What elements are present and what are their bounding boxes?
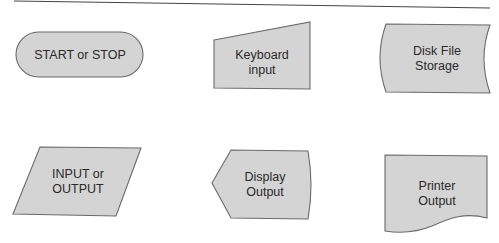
display-label: Display Output xyxy=(245,170,286,200)
terminal-label-line-1: START or STOP xyxy=(34,48,125,63)
terminal-label: START or STOP xyxy=(34,48,125,63)
keyboard-label-line-2: input xyxy=(235,63,289,78)
io-label: INPUT or OUTPUT xyxy=(52,167,104,197)
disk-label: Disk File Storage xyxy=(413,44,461,74)
display-label-line-1: Display xyxy=(245,170,286,185)
top-rule xyxy=(14,1,490,8)
printer-label-line-1: Printer xyxy=(418,179,456,194)
keyboard-label: Keyboard input xyxy=(235,48,289,78)
printer-label-line-2: Output xyxy=(418,194,456,209)
display-label-line-2: Output xyxy=(245,185,286,200)
io-label-line-2: OUTPUT xyxy=(52,182,104,197)
keyboard-label-line-1: Keyboard xyxy=(235,48,289,63)
printer-label: Printer Output xyxy=(418,179,456,209)
disk-label-line-2: Storage xyxy=(413,59,461,74)
disk-label-line-1: Disk File xyxy=(413,44,461,59)
io-label-line-1: INPUT or xyxy=(52,167,104,182)
